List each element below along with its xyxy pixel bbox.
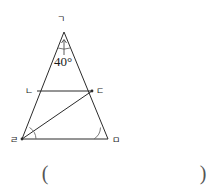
geometry-diagram: ㄱ ㄴ ㄷ ㄹ ㅁ 40° ( ) (0, 0, 220, 192)
vertex-label-apex: ㄱ (57, 14, 65, 24)
vertex-label-base-left: ㄹ (10, 135, 18, 145)
vertex-dot-mid-right (91, 90, 94, 93)
geometry-figure-root: ㄱ ㄴ ㄷ ㄹ ㅁ 40° ( ) (0, 0, 220, 192)
vertex-label-mid-right: ㄷ (96, 86, 104, 96)
vertex-dot-base-left (21, 138, 24, 141)
apex-angle-measure-label: 40° (54, 54, 72, 69)
answer-close-paren: ) (200, 162, 207, 185)
base-right-angle-arc (94, 128, 101, 140)
answer-open-paren: ( (42, 162, 49, 185)
vertex-label-mid-left: ㄴ (25, 86, 33, 96)
segment-diagonal (22, 91, 92, 139)
vertex-label-base-right: ㅁ (112, 135, 120, 145)
